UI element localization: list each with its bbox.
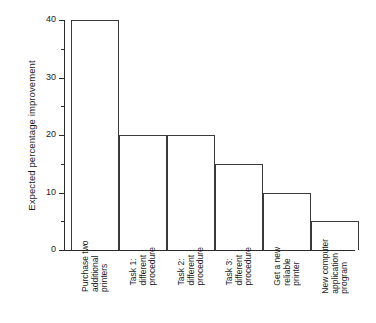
pareto-bar-chart: Expected percentage improvement 0 10 20 … [0,0,376,323]
x-label-line: printer [292,247,302,286]
bar-purchase-two-additional-printers [71,20,119,250]
bar-series [64,20,355,251]
x-label-line: New computer [321,239,331,294]
x-label-new-computer-application-program: New computer application program [311,252,359,323]
x-label-task-1-different-procedure: Task 1: different procedure [119,252,167,323]
y-axis-title: Expected percentage improvement [26,21,37,251]
bar-task-2-different-procedure [167,135,215,250]
x-label-task-2-different-procedure: Task 2: different procedure [167,252,215,323]
y-tick-label-30: 30 [46,72,56,82]
x-label-line: printers [100,241,110,293]
x-label-line: program [340,239,350,294]
x-label-line: procedure [148,247,158,285]
bar-task-1-different-procedure [119,135,167,250]
y-tick-label-0: 0 [51,244,56,254]
y-tick-label-20: 20 [46,129,56,139]
y-tick-label-40: 40 [46,14,56,24]
x-label-line: procedure [196,247,206,285]
x-axis-category-labels: Purchase two additional printers Task 1:… [64,252,355,323]
x-label-get-a-new-reliable-printer: Get a new reliable printer [263,252,311,323]
bar-get-a-new-reliable-printer [263,193,311,251]
bar-task-3-different-procedure [215,164,263,250]
x-label-line: Task 2: [177,247,187,285]
x-label-line: Task 1: [129,247,139,285]
x-label-line: Get a new [273,247,283,286]
plot-area: 0 10 20 30 40 [64,20,355,251]
x-label-purchase-two-additional-printers: Purchase two additional printers [71,252,119,323]
x-label-line: procedure [244,247,254,285]
x-label-task-3-different-procedure: Task 3: different procedure [215,252,263,323]
x-label-line: Task 3: [225,247,235,285]
y-tick-label-10: 10 [46,187,56,197]
